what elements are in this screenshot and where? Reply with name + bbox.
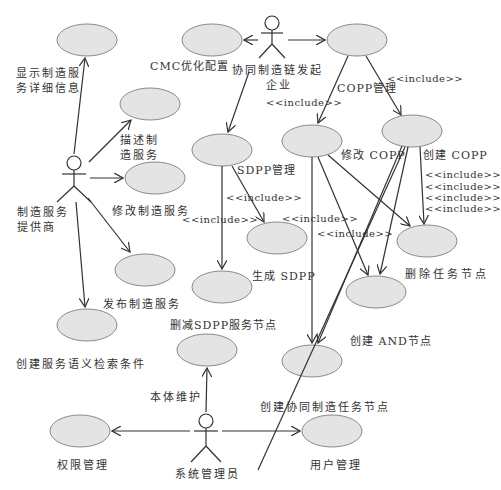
usecase-semantic-search[interactable]	[57, 309, 117, 341]
usecase-ontology-maintain[interactable]	[177, 334, 237, 366]
usecase-describe-service[interactable]	[120, 88, 180, 120]
stereotype-include: <<include>>	[282, 213, 358, 224]
label-create-collab-task-node: 创建协同制造任务节点	[260, 400, 390, 415]
label-semantic-search: 创建服务语义检索条件	[16, 357, 146, 372]
usecase-show-detail[interactable]	[57, 24, 117, 56]
label-cmc-optimize: CMC优化配置	[150, 59, 229, 74]
label-modify-service: 修改制造服务	[112, 204, 190, 219]
stereotype-include: <<include>>	[425, 169, 501, 180]
label-show-detail: 显示制造服务详细信息	[16, 66, 81, 96]
label-generate-sdpp: 生成 SDPP	[252, 269, 316, 284]
usecase-user-manage[interactable]	[302, 415, 362, 447]
label-sdpp-manage: SDPP管理	[237, 163, 296, 178]
label-delete-task-node: 删除任务节点	[405, 267, 489, 282]
actor-label-sysadmin: 系统管理员	[175, 467, 240, 482]
stereotype-include: <<include>>	[226, 192, 302, 203]
assoc-provider-semantic	[76, 202, 85, 307]
label-reduce-sdpp-node: 删减SDPP服务节点	[170, 318, 277, 333]
stereotype-include: <<include>>	[317, 228, 393, 239]
usecase-cmc-optimize[interactable]	[182, 24, 242, 56]
stereotype-include: <<include>>	[266, 97, 342, 108]
stereotype-include: <<include>>	[425, 192, 501, 203]
usecase-modify-service[interactable]	[125, 162, 185, 194]
usecase-create-collab-task-node[interactable]	[282, 345, 342, 377]
label-create-and-node: 创建 AND节点	[350, 334, 432, 349]
usecase-modify-copp[interactable]	[282, 125, 342, 157]
label-publish-service: 发布制造服务	[103, 297, 181, 312]
actor-sysadmin[interactable]	[191, 414, 221, 462]
usecase-publish-service[interactable]	[115, 254, 175, 286]
usecase-reduce-sdpp-node[interactable]	[247, 222, 307, 254]
actor-mfg-provider[interactable]	[57, 156, 91, 202]
usecase-sdpp-manage[interactable]	[192, 134, 252, 166]
actor-initiator[interactable]	[259, 16, 285, 58]
label-permission-manage: 权限管理	[57, 458, 109, 473]
usecase-permission-manage[interactable]	[50, 415, 110, 447]
stereotype-include: <<include>>	[182, 214, 258, 225]
usecase-copp-manage[interactable]	[327, 24, 387, 56]
usecase-create-and-node[interactable]	[346, 276, 406, 308]
label-describe-service: 描述制造服务	[120, 133, 159, 163]
label-create-copp: 创建 COPP	[423, 148, 488, 163]
assoc-admin-ontology	[206, 368, 207, 412]
label-modify-copp: 修改 COPP	[341, 148, 406, 163]
label-ontology-maintain: 本体维护	[150, 390, 202, 405]
actor-label-mfg-provider: 制造服务提供商	[17, 205, 69, 235]
usecase-create-copp[interactable]	[382, 115, 442, 147]
usecase-delete-task-node[interactable]	[397, 225, 457, 257]
stereotype-include: <<include>>	[387, 73, 463, 84]
label-user-manage: 用户管理	[310, 458, 362, 473]
usecase-generate-sdpp[interactable]	[192, 271, 252, 303]
stereotype-include: <<include>>	[425, 203, 501, 214]
actor-label-initiator: 协同制造链发起企业	[232, 63, 323, 93]
stereotype-include: <<include>>	[425, 181, 501, 192]
